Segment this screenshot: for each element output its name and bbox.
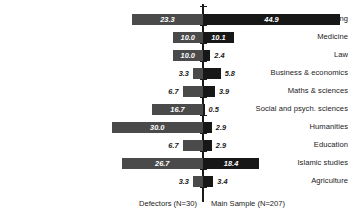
axis-tick: [200, 187, 207, 188]
bar-main-sample: [203, 176, 213, 187]
value-label-defectors: 3.3: [169, 68, 189, 79]
axis-tick: [200, 115, 207, 116]
category-label: Law: [230, 46, 348, 64]
bar-row: Engineering23.344.9: [0, 10, 348, 28]
axis-tick: [200, 133, 207, 134]
axis-tick: [200, 151, 207, 152]
value-label-defectors: 10.0: [173, 32, 204, 43]
value-label-defectors: 16.7: [152, 104, 203, 115]
bar-main-sample: [203, 122, 212, 133]
category-label: Medicine: [230, 28, 348, 46]
bar-row: Education6.72.9: [0, 136, 348, 154]
bar-row: Social and psych. sciences16.70.5: [0, 100, 348, 118]
category-label: Agriculture: [230, 172, 348, 190]
category-label: Business & economics: [230, 64, 348, 82]
bar-defectors: [193, 68, 203, 79]
bar-row: Agriculture3.33.4: [0, 172, 348, 190]
value-label-defectors: 23.3: [132, 14, 203, 25]
value-label-main-sample: 2.9: [216, 140, 238, 151]
value-label-main-sample: 2.9: [216, 122, 238, 133]
bar-main-sample: [203, 50, 210, 61]
value-label-main-sample: 0.5: [209, 104, 231, 115]
category-label: Social and psych. sciences: [230, 100, 348, 118]
bar-defectors: [183, 86, 203, 97]
bar-main-sample: [203, 86, 215, 97]
axis-tick: [200, 25, 207, 26]
legend-caption-main-sample: Main Sample (N=207): [211, 199, 341, 209]
axis-tick: [200, 6, 207, 7]
value-label-defectors: 6.7: [159, 86, 179, 97]
bar-row: Humanities30.02.9: [0, 118, 348, 136]
legend-caption-defectors: Defectors (N=30): [111, 199, 197, 209]
category-label: Education: [230, 136, 348, 154]
plot-area: Engineering23.344.9Medicine10.010.1Law10…: [0, 0, 348, 222]
value-label-defectors: 10.0: [173, 50, 204, 61]
value-label-main-sample: 18.4: [203, 158, 259, 169]
bar-row: Law10.02.4: [0, 46, 348, 64]
axis-tick: [200, 61, 207, 62]
bar-row: Medicine10.010.1: [0, 28, 348, 46]
value-label-main-sample: 44.9: [203, 14, 340, 25]
axis-tick: [200, 43, 207, 44]
value-label-main-sample: 3.9: [219, 86, 241, 97]
bar-defectors: [193, 176, 203, 187]
value-label-main-sample: 3.4: [217, 176, 239, 187]
axis-tick: [200, 97, 207, 98]
category-label: Maths & sciences: [230, 82, 348, 100]
diverging-bar-chart: Engineering23.344.9Medicine10.010.1Law10…: [0, 0, 348, 222]
value-label-defectors: 6.7: [159, 140, 179, 151]
value-label-defectors: 3.3: [169, 176, 189, 187]
bar-main-sample: [203, 104, 205, 115]
value-label-main-sample: 10.1: [203, 32, 234, 43]
bar-row: Business & economics3.35.8: [0, 64, 348, 82]
value-label-main-sample: 2.4: [214, 50, 236, 61]
value-label-main-sample: 5.8: [225, 68, 247, 79]
category-label: Humanities: [230, 118, 348, 136]
bar-defectors: [183, 140, 203, 151]
axis-tick: [200, 79, 207, 80]
bar-main-sample: [203, 68, 221, 79]
bar-row: Maths & sciences6.73.9: [0, 82, 348, 100]
axis-tick: [200, 169, 207, 170]
value-label-defectors: 30.0: [112, 122, 204, 133]
bar-main-sample: [203, 140, 212, 151]
bar-row: Islamic studies26.718.4: [0, 154, 348, 172]
value-label-defectors: 26.7: [122, 158, 203, 169]
